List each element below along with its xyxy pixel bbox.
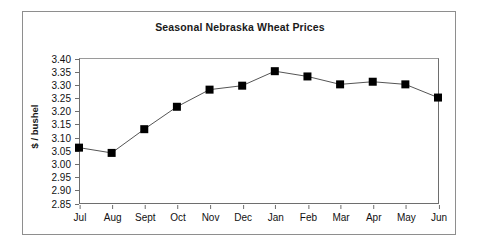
x-axis-tick-mark — [210, 205, 211, 209]
y-axis-tick-label: 3.10 — [52, 133, 75, 144]
y-axis-tick-label: 3.30 — [52, 80, 75, 91]
y-axis-tick-label: 3.40 — [52, 54, 75, 65]
x-axis-tick-label: Aug — [104, 212, 122, 223]
x-axis-tick-label: Mar — [332, 212, 349, 223]
x-axis-tick-mark — [145, 205, 146, 209]
x-axis-tick-label: Jul — [74, 212, 87, 223]
data-point-marker — [173, 103, 181, 111]
x-axis-tick: Jul — [74, 205, 87, 223]
x-axis-tick-mark — [112, 205, 113, 209]
y-axis-tick: 3.20 — [52, 106, 79, 118]
data-point-marker — [108, 149, 116, 157]
y-axis-tick-label: 3.00 — [52, 159, 75, 170]
x-axis-tick-label: Sept — [135, 212, 156, 223]
y-axis-tick: 3.40 — [52, 53, 79, 65]
y-axis-tick-label: 3.20 — [52, 106, 75, 117]
chart-figure: Seasonal Nebraska Wheat Prices $ / bushe… — [22, 11, 456, 235]
y-axis-tick-label: 2.85 — [52, 199, 75, 210]
x-axis-tick-mark — [308, 205, 309, 209]
x-axis-tick-mark — [373, 205, 374, 209]
x-axis-tick-mark — [406, 205, 407, 209]
x-axis-tick: Feb — [300, 205, 317, 223]
x-axis-tick-mark — [439, 205, 440, 209]
x-axis-tick: Oct — [170, 205, 186, 223]
x-axis-tick: Sept — [135, 205, 156, 223]
x-axis-tick: Nov — [202, 205, 220, 223]
data-point-marker — [336, 80, 344, 88]
y-axis-tick: 3.30 — [52, 79, 79, 91]
x-axis-tick-label: Apr — [366, 212, 382, 223]
y-axis-tick: 3.25 — [52, 93, 79, 105]
y-axis-tick-label: 2.90 — [52, 185, 75, 196]
y-axis-tick: 3.10 — [52, 132, 79, 144]
x-axis-tick-label: Nov — [202, 212, 220, 223]
y-axis-tick: 3.35 — [52, 66, 79, 78]
series-line — [79, 71, 438, 153]
x-axis-tick-label: Dec — [234, 212, 252, 223]
x-axis-tick-mark — [341, 205, 342, 209]
x-axis-tick-mark — [275, 205, 276, 209]
x-axis-tick-mark — [79, 205, 80, 209]
y-axis-tick: 2.90 — [52, 185, 79, 197]
x-axis-tick-label: Oct — [170, 212, 186, 223]
x-axis-tick: Dec — [234, 205, 252, 223]
y-axis-tick-label: 2.95 — [52, 172, 75, 183]
y-axis-ticks: 3.403.353.303.253.203.153.103.053.002.95… — [23, 58, 79, 204]
y-axis-tick: 3.05 — [52, 145, 79, 157]
data-point-marker — [434, 94, 442, 102]
data-point-marker — [303, 72, 311, 80]
data-point-marker — [369, 78, 377, 86]
data-point-marker — [206, 86, 214, 94]
x-axis-ticks: JulAugSeptOctNovDecJanFebMarAprMayJun — [79, 205, 441, 229]
y-axis-tick-label: 3.15 — [52, 119, 75, 130]
x-axis-tick-label: Feb — [300, 212, 317, 223]
x-axis-tick: Apr — [366, 205, 382, 223]
y-axis-tick-label: 3.05 — [52, 146, 75, 157]
data-series-layer — [79, 58, 439, 204]
data-point-marker — [271, 67, 279, 75]
x-axis-tick: Jun — [431, 205, 447, 223]
series-markers — [75, 67, 442, 157]
y-axis-tick-label: 3.25 — [52, 93, 75, 104]
x-axis-tick-mark — [177, 205, 178, 209]
x-axis-tick-label: Jun — [431, 212, 447, 223]
y-axis-tick: 3.00 — [52, 158, 79, 170]
data-point-marker — [140, 125, 148, 133]
page-title: Seasonal Nebraska Wheat Prices — [23, 21, 457, 33]
x-axis-tick-label: May — [397, 212, 416, 223]
y-axis-tick: 2.95 — [52, 172, 79, 184]
y-axis-tick-label: 3.35 — [52, 67, 75, 78]
x-axis-tick: Jan — [268, 205, 284, 223]
x-axis-tick: Mar — [332, 205, 349, 223]
data-point-marker — [75, 144, 83, 152]
data-point-marker — [238, 82, 246, 90]
x-axis-tick-label: Jan — [268, 212, 284, 223]
x-axis-tick: Aug — [104, 205, 122, 223]
x-axis-tick: May — [397, 205, 416, 223]
x-axis-tick-mark — [243, 205, 244, 209]
y-axis-tick: 3.15 — [52, 119, 79, 131]
data-point-marker — [401, 80, 409, 88]
